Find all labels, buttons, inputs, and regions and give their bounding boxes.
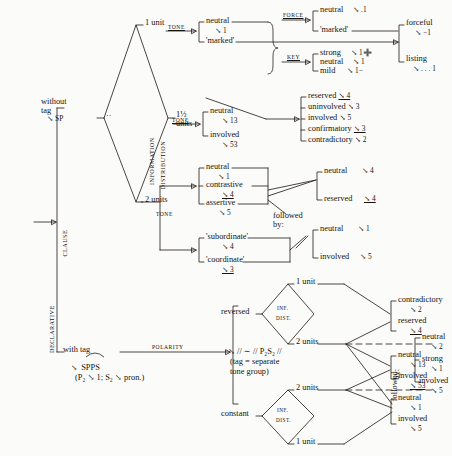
system-tone-1half: TONE	[172, 118, 189, 124]
inf-dist-dots: ··	[106, 112, 112, 121]
followed-by-mid-line2: by:	[273, 221, 303, 230]
tag-arc-icon	[84, 351, 110, 358]
outcome-b-neutral-tone: ↘ 1	[358, 225, 370, 233]
marked-outcome-uninvolved-tone: ↘ 3	[348, 102, 360, 111]
bottom-followed-by-line2: by:	[393, 369, 402, 380]
far-right-strong-tone: ↘ 1	[431, 365, 443, 373]
outcome-a-neutral-tone: ↘ 4	[362, 167, 374, 175]
force-neutral[interactable]: neutral	[320, 6, 343, 15]
outcome-listing[interactable]: listing	[406, 55, 427, 64]
constant-1-unit[interactable]: 1 unit	[296, 438, 315, 447]
far-right-neutral-tone: ↘ 2	[431, 343, 443, 351]
marked-outcome-reserved-label: reserved	[308, 91, 336, 100]
marked-outcome-uninvolved[interactable]: uninvolved ↘ 3	[308, 103, 360, 112]
outcome-b-involved-tone: ↘ 5	[360, 253, 372, 261]
node-with-tag[interactable]: with tag ↘ SPPS (P₂ ↘ 1; S₂ ↘ pron.)	[63, 346, 132, 381]
tone-1unit-neutral[interactable]: neutral	[206, 17, 229, 26]
marked-outcome-contradictory-label: contradictory	[308, 135, 353, 144]
far-right-involved[interactable]: involved	[419, 377, 448, 386]
marked-outcome-confirmatory[interactable]: confirmatory ↘ 3	[308, 125, 366, 134]
tone-1half-involved[interactable]: involved	[210, 131, 239, 140]
inf-dist-line2: DISTRIBUTION	[160, 141, 166, 190]
inf-dist-line1: INFORMATION	[149, 137, 155, 185]
tone-1half-involved-tone: ↘ 53	[222, 141, 237, 149]
marked-outcome-confirmatory-label: confirmatory	[308, 124, 352, 133]
marked-outcome-involved-label: involved	[308, 113, 337, 122]
with-tag-arrow: ↘	[71, 363, 77, 372]
tone-2u-coordinate-tone: ↘ 3	[222, 266, 234, 274]
marked-outcome-reserved-tone: ↘ 4	[338, 91, 350, 100]
system-force: FORCE	[283, 13, 304, 19]
with-tag-detail: (P₂ ↘ 1; S₂ ↘ pron.)	[75, 374, 144, 383]
tone-2u-assertive[interactable]: assertive	[206, 199, 235, 208]
polarity-constant[interactable]: constant	[221, 410, 249, 419]
system-tone-2units: TONE	[156, 212, 173, 218]
outcome-a-reserved[interactable]: reserved	[324, 195, 352, 204]
bottom-g1-reserved-tone: ↘ 4	[410, 327, 422, 335]
system-polarity: POLARITY	[152, 345, 184, 351]
with-tag-realization: SPPS	[81, 363, 100, 372]
marked-outcome-confirmatory-tone: ↘ 3	[354, 124, 366, 133]
tone-1unit-marked[interactable]: 'marked'	[206, 37, 234, 46]
bottom-g1-contradictory[interactable]: contradictory	[398, 296, 443, 305]
reversed-2-units[interactable]: 2 units	[296, 338, 319, 347]
tone-1unit-neutral-tone: ↘ 1	[215, 27, 227, 35]
far-right-strong[interactable]: strong	[422, 355, 443, 364]
tone-2u-coordinate[interactable]: 'coordinate'	[206, 256, 244, 265]
outcome-b-involved[interactable]: involved	[320, 253, 349, 262]
inf-dist-small-reversed-line1: INF.	[277, 306, 288, 311]
bottom-g2-neutral[interactable]: neutral	[398, 351, 421, 360]
key-mild-tone: ↘ 1−	[347, 67, 363, 75]
inf-dist-option-1-unit[interactable]: 1 unit	[145, 19, 164, 28]
inf-dist-small-constant-line1: INF.	[277, 408, 288, 413]
outcome-a-neutral[interactable]: neutral	[324, 167, 347, 176]
tone-2u-assertive-tone: ↘ 5	[219, 209, 231, 217]
marked-outcome-involved-tone: ↘ 5	[339, 113, 351, 122]
tone-2u-subordinate[interactable]: 'subordinate'	[206, 233, 248, 242]
tone-1half-neutral[interactable]: neutral	[210, 107, 233, 116]
constant-2-units[interactable]: 2 units	[296, 384, 319, 393]
reversed-1-unit[interactable]: 1 unit	[296, 278, 315, 287]
diagram-canvas: DECLARATIVE CLAUSE without tag ↘ SP with…	[0, 0, 452, 456]
connector-lines	[0, 0, 452, 456]
label-clause: CLAUSE	[62, 230, 68, 257]
tone-2u-contrastive[interactable]: contrastive	[206, 181, 243, 190]
label-declarative: DECLARATIVE	[49, 305, 55, 353]
tone-2u-subordinate-tone: ↘ 4	[222, 243, 234, 251]
reversed-2-units-realization: ↘ // ∼ // P₂S₂ //	[228, 348, 282, 357]
outcome-forceful[interactable]: forceful	[406, 19, 433, 28]
bottom-g1-reserved[interactable]: reserved	[398, 317, 426, 326]
tone-1half-neutral-tone: ↘ 13	[222, 117, 237, 125]
marked-outcome-contradictory[interactable]: contradictory ↘ 2	[308, 136, 367, 145]
bottom-g3-involved[interactable]: involved	[398, 415, 427, 424]
force-neutral-tone: ↘ .1	[353, 6, 367, 14]
marked-outcome-involved[interactable]: involved ↘ 5	[308, 114, 351, 123]
inf-dist-small-constant-line2: DIST.	[276, 418, 291, 423]
tone-2u-neutral[interactable]: neutral	[206, 163, 229, 172]
inf-dist-option-2-units[interactable]: 2 units	[145, 196, 168, 205]
inf-dist-small-reversed-line2: DIST.	[276, 316, 291, 321]
far-right-neutral[interactable]: neutral	[422, 333, 445, 342]
key-neutral-tone: ↘ 1	[353, 58, 365, 66]
reversed-2-units-note-line1: (tag = separate	[230, 358, 279, 367]
marked-outcome-reserved[interactable]: reserved ↘ 4	[308, 92, 350, 101]
node-without-tag[interactable]: without tag ↘ SP	[41, 98, 67, 123]
outcome-forceful-tone: ↘ −1	[415, 29, 431, 37]
outcome-b-neutral[interactable]: neutral	[320, 225, 343, 234]
bottom-g3-neutral-tone: ↘ 1	[410, 404, 422, 412]
bottom-g1-contradictory-tone: ↘ 2	[410, 306, 422, 314]
bottom-g3-involved-tone: ↘ 5	[410, 425, 422, 433]
polarity-reversed[interactable]: reversed	[221, 308, 249, 317]
marked-outcome-contradictory-tone: ↘ 2	[355, 135, 367, 144]
reversed-2-units-note-line2: tone group)	[230, 368, 269, 377]
without-tag-realization: ↘ SP	[47, 115, 73, 123]
outcome-listing-tone: ↘ . . . 1	[413, 65, 436, 73]
marked-outcome-uninvolved-label: uninvolved	[308, 102, 346, 111]
outcome-a-reserved-tone: ↘ 4	[364, 195, 376, 203]
far-right-involved-tone: ↘ 5	[431, 387, 443, 395]
bottom-g3-neutral[interactable]: neutral	[398, 394, 421, 403]
key-mild[interactable]: mild	[320, 67, 335, 76]
force-marked[interactable]: 'marked'	[320, 26, 348, 35]
system-tone-1unit: TONE	[168, 25, 185, 31]
key-strong-tone: ↘ 1➕	[351, 49, 372, 57]
